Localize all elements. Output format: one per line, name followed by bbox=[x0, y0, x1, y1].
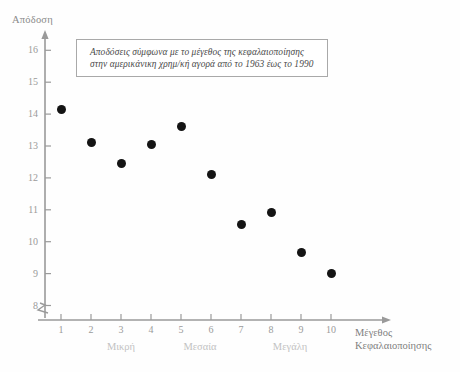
x-tick-label: 1 bbox=[50, 324, 72, 335]
category-label-large: Μεγάλη bbox=[255, 341, 325, 352]
y-tick-label: 9 bbox=[18, 268, 38, 279]
x-tick-label: 6 bbox=[200, 324, 222, 335]
data-point bbox=[237, 220, 246, 229]
data-point bbox=[147, 140, 156, 149]
x-tick-label: 3 bbox=[110, 324, 132, 335]
data-point bbox=[327, 269, 336, 278]
x-tick-label: 7 bbox=[230, 324, 252, 335]
y-tick-label: 16 bbox=[18, 44, 38, 55]
y-tick-marks bbox=[45, 50, 51, 305]
category-label-small: Μικρή bbox=[86, 341, 156, 352]
y-tick-label: 13 bbox=[18, 140, 38, 151]
y-tick-label: 12 bbox=[18, 172, 38, 183]
x-tick-label: 10 bbox=[320, 324, 342, 335]
y-tick-label: 11 bbox=[18, 204, 38, 215]
y-tick-label: 15 bbox=[18, 76, 38, 87]
scatter-chart: Απόδοση Μέγεθος Κεφαλαιοποίησης 8 9 10 1… bbox=[0, 0, 460, 372]
x-axis-arrow-icon bbox=[382, 317, 391, 324]
x-tick-label: 9 bbox=[290, 324, 312, 335]
data-point bbox=[267, 208, 276, 217]
y-axis-break-icon bbox=[38, 303, 48, 313]
chart-title-box: Αποδόσεις σύμφωνα με το μέγεθος της κεφα… bbox=[76, 39, 328, 77]
data-point bbox=[207, 170, 216, 179]
y-axis-arrow-icon bbox=[41, 30, 48, 39]
x-tick-marks bbox=[61, 314, 331, 320]
data-point bbox=[117, 159, 126, 168]
x-tick-label: 4 bbox=[140, 324, 162, 335]
x-tick-label: 8 bbox=[260, 324, 282, 335]
x-tick-label: 2 bbox=[80, 324, 102, 335]
x-axis-title-line2: Κεφαλαιοποίησης bbox=[355, 339, 431, 352]
data-point bbox=[297, 248, 306, 257]
x-axis-title: Μέγεθος Κεφαλαιοποίησης bbox=[355, 326, 431, 352]
category-label-medium: Μεσαία bbox=[165, 341, 235, 352]
data-point bbox=[57, 105, 66, 114]
x-tick-label: 5 bbox=[170, 324, 192, 335]
data-point bbox=[177, 122, 186, 131]
chart-title-line2: στην αμερικάνικη χρημ/κή αγορά από το 19… bbox=[90, 58, 317, 70]
y-axis-title: Απόδοση bbox=[12, 14, 53, 25]
data-point bbox=[87, 138, 96, 147]
y-tick-label: 14 bbox=[18, 108, 38, 119]
chart-title-line1: Αποδόσεις σύμφωνα με το μέγεθος της κεφα… bbox=[90, 46, 317, 58]
y-tick-label: 8 bbox=[18, 300, 38, 311]
x-axis-title-line1: Μέγεθος bbox=[355, 326, 431, 339]
y-tick-label: 10 bbox=[18, 236, 38, 247]
